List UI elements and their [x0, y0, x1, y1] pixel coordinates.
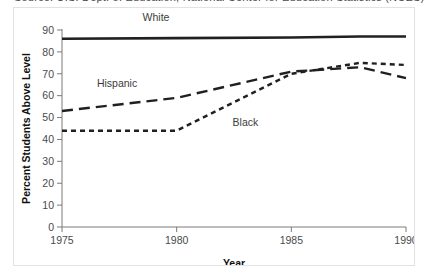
line-chart: 01020304050607080901975198019851990Perce… [14, 8, 414, 265]
x-axis-title: Year [223, 257, 245, 265]
x-axis-tick-label: 1975 [50, 234, 74, 246]
x-axis-tick-label: 1980 [165, 234, 189, 246]
series-label-black: Black [233, 116, 259, 128]
x-axis-tick-label: 1985 [280, 234, 304, 246]
y-axis-tick-label: 10 [42, 199, 54, 211]
series-label-hispanic: Hispanic [97, 77, 137, 89]
x-axis-tick-label: 1990 [394, 234, 414, 246]
source-caption-text: Source: U.S. Dept. of Education, Nationa… [14, 0, 424, 3]
y-axis-tick-label: 90 [42, 24, 54, 36]
y-axis-tick-label: 50 [42, 111, 54, 123]
y-axis-tick-label: 0 [48, 221, 54, 233]
y-axis-tick-label: 30 [42, 155, 54, 167]
series-label-white: White [143, 11, 170, 23]
y-axis-tick-label: 20 [42, 177, 54, 189]
y-axis-tick-label: 80 [42, 46, 54, 58]
figure-frame: 01020304050607080901975198019851990Perce… [13, 7, 415, 266]
y-axis-tick-label: 40 [42, 133, 54, 145]
y-axis-tick-label: 70 [42, 68, 54, 80]
y-axis-title: Percent Students Above Level [20, 53, 32, 204]
series-line-hispanic [62, 67, 406, 111]
series-line-white [62, 37, 406, 39]
source-caption-strip: Source: U.S. Dept. of Education, Nationa… [0, 0, 428, 7]
y-axis-tick-label: 60 [42, 89, 54, 101]
